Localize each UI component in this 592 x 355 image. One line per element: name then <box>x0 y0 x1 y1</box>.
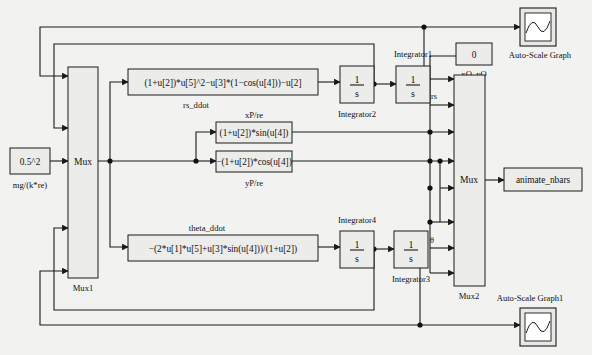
integrator4-denominator: s <box>355 253 359 264</box>
fcn-rs-ddot-block[interactable]: (1+u[2])*u[5]^2−u[3]*(1−cos(u[4]))−u[2] <box>128 69 318 95</box>
mux1-label: Mux1 <box>73 283 94 293</box>
scope-top-block[interactable] <box>520 8 556 46</box>
integrator2-numerator: 1 <box>355 74 360 85</box>
fcn-xp-block[interactable]: (1+u[2])*sin(u[4]) <box>216 122 292 143</box>
signal-label-rs: rs <box>431 92 437 101</box>
junction-dot-yp-b <box>437 158 442 163</box>
junction-dot-xp <box>427 129 432 134</box>
integrator1-numerator: 1 <box>411 74 416 85</box>
integrator4-block[interactable]: 1 s <box>340 231 374 268</box>
mux1-text: Mux <box>74 156 92 167</box>
mux2-label: Mux2 <box>459 291 480 301</box>
integrator2-label: Integrator2 <box>338 109 376 119</box>
integrator4-numerator: 1 <box>355 239 360 250</box>
integrator2-denominator: s <box>355 88 359 99</box>
scope-bottom-block[interactable] <box>520 308 556 346</box>
junction-dot-riser-mid <box>427 185 432 190</box>
fcn-xp-expr: (1+u[2])*sin(u[4]) <box>220 128 289 139</box>
fcn-theta-ddot-block[interactable]: −(2*u[1]*u[5]+u[3]*sin(u[4]))/(1+u[2]) <box>128 235 318 261</box>
integrator3-label: Integrator3 <box>392 274 430 284</box>
signal-label-theta: θ <box>430 236 434 245</box>
integrator1-block[interactable]: 1 s <box>396 66 430 103</box>
wire-feedback-theta <box>40 271 420 325</box>
wire-mux1-to-xp <box>196 132 216 161</box>
junction-dot-bottom <box>417 322 422 327</box>
mux2-text: Mux <box>460 174 478 185</box>
integrator2-block[interactable]: 1 s <box>340 66 374 103</box>
scope-top-label: Auto-Scale Graph <box>509 50 572 60</box>
integrator1-denominator: s <box>411 88 415 99</box>
junction-dot-top <box>421 24 426 29</box>
mux1-block[interactable]: Mux <box>68 67 98 278</box>
fcn-yp-block[interactable]: −(1+u[2])*cos(u[4]) <box>216 151 292 172</box>
constant-input-block[interactable]: 0.5^2 <box>10 148 50 174</box>
block-diagram-canvas: 0.5^2 mg/(k*re) Mux Mux1 (1+u[2])*u[5]^2… <box>0 0 592 355</box>
integrator4-label: Integrator4 <box>338 215 377 225</box>
diagram-svg: 0.5^2 mg/(k*re) Mux Mux1 (1+u[2])*u[5]^2… <box>0 0 592 355</box>
wire-mux1-to-thetaddot <box>110 161 128 247</box>
mux2-block[interactable]: Mux <box>454 75 485 286</box>
junction-dot-yp-a <box>427 158 432 163</box>
fcn-rs-ddot-label: rs_ddot <box>183 100 209 110</box>
fcn-rs-ddot-expr: (1+u[2])*u[5]^2−u[3]*(1−cos(u[4]))−u[2] <box>145 78 302 89</box>
integrator1-label: Integrator1 <box>394 49 432 59</box>
integrator3-denominator: s <box>409 253 413 264</box>
junction-dot-riser-low <box>427 219 432 224</box>
fcn-xp-label: xP/re <box>245 110 263 120</box>
integrator3-block[interactable]: 1 s <box>394 231 428 268</box>
animate-nbars-text: animate_nbars <box>516 175 571 185</box>
fcn-yp-label: yP/re <box>245 178 263 188</box>
constant-origin-block[interactable]: 0 <box>456 43 492 65</box>
constant-input-label: mg/(k*re) <box>13 180 48 190</box>
scope-bottom-label: Auto-Scale Graph1 <box>497 293 564 303</box>
wire-const0-to-riser <box>430 56 456 79</box>
constant-origin-value: 0 <box>472 50 477 60</box>
junction-dot-mux1-a <box>107 158 112 163</box>
wire-mux1-to-rsddot <box>110 82 128 161</box>
junction-dot-mux1-b <box>193 158 198 163</box>
animate-nbars-block[interactable]: animate_nbars <box>504 168 582 191</box>
fcn-theta-ddot-label: theta_ddot <box>189 223 226 233</box>
fcn-yp-expr: −(1+u[2])*cos(u[4]) <box>216 157 292 168</box>
fcn-theta-ddot-expr: −(2*u[1]*u[5]+u[3]*sin(u[4]))/(1+u[2]) <box>149 244 297 255</box>
constant-input-value: 0.5^2 <box>20 157 41 167</box>
integrator3-numerator: 1 <box>409 239 414 250</box>
